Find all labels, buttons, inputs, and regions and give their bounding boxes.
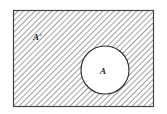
complement-label: A' [32,32,42,42]
venn-diagram: A' A [0,0,167,114]
set-a-label: A [99,66,106,76]
